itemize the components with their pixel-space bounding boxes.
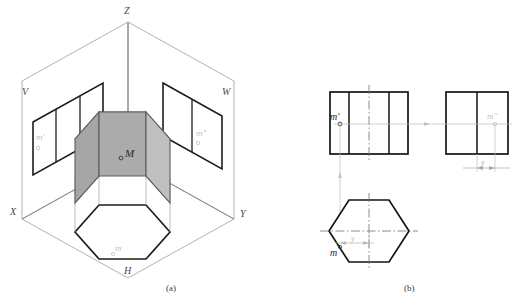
- vertical-projection-arrow: [338, 172, 341, 178]
- plane-label-h: H: [123, 265, 132, 276]
- figure-root: m' m″ m: [0, 0, 520, 305]
- plane-label-v: V: [22, 86, 30, 97]
- side-y-arrow-right: [489, 166, 495, 170]
- projection-line-arrow: [424, 122, 430, 125]
- w-plane-point-label: m″: [196, 128, 206, 138]
- axis-label-x: X: [9, 206, 17, 217]
- technical-drawing-canvas: m' m″ m: [0, 0, 520, 305]
- plane-label-w: W: [222, 86, 232, 97]
- h-plane-projection: m: [75, 205, 170, 259]
- top-y-dimension-label: y: [350, 234, 355, 243]
- caption-b: (b): [404, 283, 415, 293]
- prism-face-front: [99, 112, 146, 176]
- prism-point-m-label: M: [124, 147, 135, 159]
- front-view-point-label: m': [330, 111, 340, 122]
- side-y-dimension-label: y: [480, 158, 485, 167]
- top-view-point-label: m: [330, 247, 337, 258]
- hexagonal-prism: M: [75, 112, 170, 203]
- side-view: m″ y: [446, 92, 510, 172]
- orthographic-diagram: m' m″ y: [320, 85, 512, 269]
- pictorial-diagram: m' m″ m: [9, 5, 247, 278]
- caption-a: (a): [166, 283, 176, 293]
- v-plane-point-label: m': [36, 132, 45, 142]
- side-view-point-label: m″: [487, 111, 497, 121]
- axis-label-y: Y: [240, 208, 247, 219]
- h-projection-hexagon: [75, 205, 170, 259]
- w-plane-projection: m″: [163, 83, 222, 169]
- top-view: m y: [320, 193, 418, 269]
- front-view: m': [330, 85, 408, 161]
- side-view-y-dimension: y: [463, 158, 510, 170]
- axis-label-z: Z: [124, 5, 130, 16]
- h-plane-point-label: m: [115, 243, 122, 253]
